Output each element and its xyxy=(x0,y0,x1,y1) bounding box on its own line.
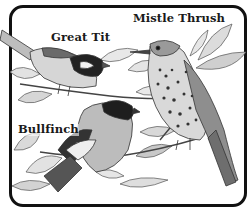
bird-illustration xyxy=(0,0,251,214)
mistle-thrush-label: Mistle Thrush xyxy=(133,13,225,25)
bullfinch-bird-icon xyxy=(44,100,140,192)
bullfinch-label: Bullfinch xyxy=(18,124,79,136)
great-tit-label: Great Tit xyxy=(51,32,110,44)
